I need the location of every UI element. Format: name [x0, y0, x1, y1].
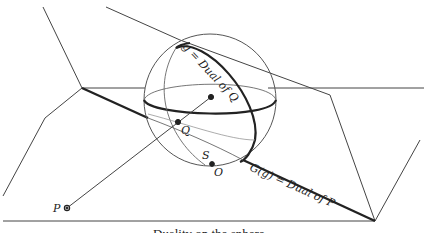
label-dual-of-p: G(g) = Dual of P [248, 161, 338, 210]
point-center [208, 94, 213, 99]
sphere-duality-diagram: g = Dual of Q Q S O P G(g) = Dual of P D… [0, 0, 427, 233]
label-p: P [52, 202, 61, 215]
point-q [175, 119, 180, 124]
label-o: O [214, 166, 223, 179]
sphere [144, 34, 276, 166]
label-q: Q [181, 124, 190, 137]
label-s: S [202, 149, 210, 162]
caption: Duality on the sphere [153, 226, 265, 233]
